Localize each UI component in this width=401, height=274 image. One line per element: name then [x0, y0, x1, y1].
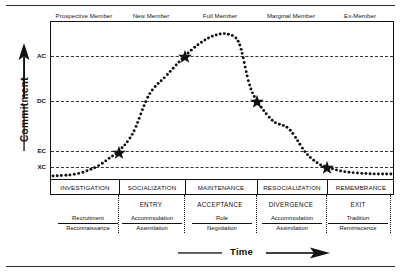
process-row: INVESTIGATION SOCIALIZATION MAINTENANCE … [50, 180, 394, 195]
transition-exit: EXIT [326, 200, 390, 210]
fraction-label-row: Recruitment Reconnaissance Accommodation… [50, 214, 394, 238]
curve-star-marker [250, 95, 264, 108]
y-axis-tick-labels: AC DC EC XC [22, 21, 46, 180]
socialization-model-figure: Prospective Member New Member Full Membe… [0, 0, 401, 274]
process-resocialization: RESOCIALIZATION [257, 181, 327, 194]
transition-divergence: DIVERGENCE [256, 200, 326, 210]
fraction-tradition-reminiscence: Tradition Reminiscence [328, 214, 388, 233]
fraction-numerator: Accommodation [262, 214, 322, 224]
fraction-denominator: Reminiscence [328, 224, 388, 234]
fraction-accommodation-assimilation-2: Accommodation Assimilation [262, 214, 322, 233]
fraction-denominator: Negotiation [192, 224, 252, 234]
process-divider-2 [185, 180, 186, 195]
fraction-numerator: Recruitment [58, 214, 118, 224]
process-maintenance: MAINTENANCE [185, 181, 257, 194]
y-tick-dc: DC [26, 97, 46, 104]
process-socialization: SOCIALIZATION [119, 181, 185, 194]
fraction-numerator: Role [192, 214, 252, 224]
fraction-role-negotiation: Role Negotiation [192, 214, 252, 233]
process-remembrance: REMEMBRANCE [327, 181, 395, 194]
transition-entry: ENTRY [118, 200, 184, 210]
y-tick-ec: EC [26, 147, 46, 154]
commitment-curve [51, 22, 395, 181]
top-divider-rule [6, 5, 395, 6]
fraction-denominator: Assimilation [122, 224, 182, 234]
y-tick-xc: XC [26, 163, 46, 170]
fraction-numerator: Tradition [328, 214, 388, 224]
y-tick-ac: AC [26, 52, 46, 59]
fraction-denominator: Reconnaissance [58, 224, 118, 234]
x-axis-time: Time [178, 246, 338, 260]
process-divider-3 [257, 180, 258, 195]
plot-area [50, 21, 394, 180]
fraction-numerator: Accommodation [122, 214, 182, 224]
x-axis-title: Time [230, 246, 253, 257]
transition-acceptance: ACCEPTANCE [184, 200, 256, 210]
fraction-recruitment-reconnaissance: Recruitment Reconnaissance [58, 214, 118, 233]
curve-star-marker [178, 50, 192, 63]
process-investigation: INVESTIGATION [51, 181, 119, 194]
time-axis-arrow-icon [178, 246, 338, 260]
process-divider-1 [119, 180, 120, 195]
fraction-denominator: Assimilation [262, 224, 322, 234]
process-divider-4 [327, 180, 328, 195]
curve-star-marker [112, 146, 126, 159]
bottom-divider-rule [6, 266, 395, 267]
fraction-accommodation-assimilation-1: Accommodation Assimilation [122, 214, 182, 233]
curve-star-marker [320, 161, 334, 174]
